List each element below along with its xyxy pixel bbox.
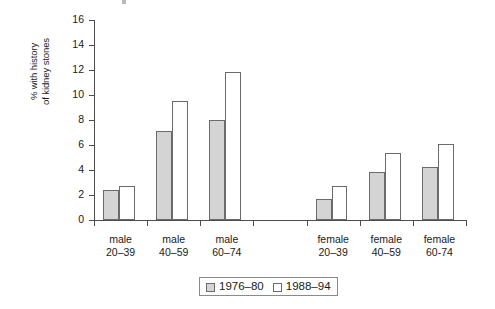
y-tick-label-4: 4 [42, 164, 84, 174]
category-label-2-line-1: 60–74 [200, 246, 253, 259]
y-tick-label-8: 8 [42, 114, 84, 124]
x-tick-4 [307, 220, 308, 226]
legend-label-0: 1976–80 [219, 280, 264, 292]
y-tick-label-0: 0 [42, 214, 84, 224]
bar-chart: % with history of kidney stones 02468101… [0, 0, 495, 309]
x-tick-0 [94, 220, 95, 226]
x-tick-7 [466, 220, 467, 226]
x-tick-2 [200, 220, 201, 226]
x-tick-1 [147, 220, 148, 226]
category-label-5-line-0: female [413, 233, 466, 246]
category-label-3: female20–39 [307, 233, 360, 259]
y-tick-12 [89, 70, 94, 71]
x-tick-6 [413, 220, 414, 226]
y-tick-4 [89, 170, 94, 171]
y-tick-6 [89, 145, 94, 146]
y-tick-2 [89, 195, 94, 196]
bar-female-20-39-1976-80 [316, 199, 332, 220]
legend-swatch-icon-0 [206, 283, 215, 292]
category-label-1-line-0: male [147, 233, 200, 246]
plot-area: 0246810121416 [94, 20, 466, 220]
y-tick-14 [89, 45, 94, 46]
category-label-4-line-1: 40–59 [360, 246, 413, 259]
bar-female-40-59-1988-94 [385, 153, 401, 221]
y-axis-line [94, 20, 95, 221]
bar-male-40-59-1988-94 [172, 101, 188, 220]
category-label-1-line-1: 40–59 [147, 246, 200, 259]
category-label-3-line-1: 20–39 [307, 246, 360, 259]
legend-swatch-icon-1 [273, 283, 282, 292]
bar-male-20-39-1976-80 [103, 190, 119, 220]
category-label-2-line-0: male [200, 233, 253, 246]
x-axis-line [94, 220, 467, 221]
y-tick-label-14: 14 [42, 39, 84, 49]
bar-female-20-39-1988-94 [332, 186, 348, 220]
y-tick-label-2: 2 [42, 189, 84, 199]
y-tick-label-12: 12 [42, 64, 84, 74]
y-tick-8 [89, 120, 94, 121]
category-label-2: male60–74 [200, 233, 253, 259]
y-axis-title-line-1: % with history [28, 0, 40, 157]
category-label-0-line-0: male [94, 233, 147, 246]
category-label-1: male40–59 [147, 233, 200, 259]
y-tick-16 [89, 20, 94, 21]
bar-male-60-74-1988-94 [225, 72, 241, 220]
x-tick-3 [253, 220, 254, 226]
category-label-5: female60-74 [413, 233, 466, 259]
y-tick-10 [89, 95, 94, 96]
legend-label-1: 1988–94 [286, 280, 331, 292]
category-label-0: male20–39 [94, 233, 147, 259]
bar-female-60-74-1976-80 [422, 167, 438, 220]
category-label-5-line-1: 60-74 [413, 246, 466, 259]
category-label-0-line-1: 20–39 [94, 246, 147, 259]
chart-legend: 1976–80 1988–94 [199, 277, 338, 296]
y-tick-label-10: 10 [42, 89, 84, 99]
bar-female-40-59-1976-80 [369, 172, 385, 220]
legend-item-1: 1988–94 [273, 280, 331, 292]
page-artifact-mark [122, 0, 126, 4]
category-label-3-line-0: female [307, 233, 360, 246]
y-tick-label-6: 6 [42, 139, 84, 149]
bar-male-60-74-1976-80 [209, 120, 225, 220]
bar-male-40-59-1976-80 [156, 131, 172, 220]
category-label-4: female40–59 [360, 233, 413, 259]
bar-male-20-39-1988-94 [119, 186, 135, 220]
x-tick-5 [360, 220, 361, 226]
category-label-4-line-0: female [360, 233, 413, 246]
bar-female-60-74-1988-94 [438, 144, 454, 220]
y-tick-label-16: 16 [42, 14, 84, 24]
legend-item-0: 1976–80 [206, 280, 264, 292]
